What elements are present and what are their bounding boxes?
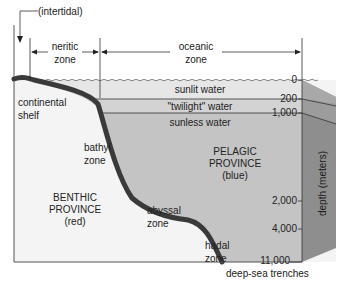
oceanic-arrowhead-right (295, 50, 301, 55)
pelagic-province-label-3: (blue) (200, 170, 270, 181)
continental-shelf-label-2: shelf (18, 110, 39, 121)
sunless-water-label: sunless water (150, 117, 250, 128)
intertidal-label: (intertidal) (38, 6, 82, 17)
continental-shelf-label-1: continental (18, 97, 66, 108)
benthic-province-label-1: BENTHIC (40, 192, 110, 203)
intertidal-arrow (20, 11, 38, 38)
pelagic-province-label-1: PELAGIC (200, 146, 270, 157)
bathyl-zone-label-2: zone (84, 155, 106, 166)
depth-tick-1000: 1,000 (262, 107, 297, 118)
oceanic-zone-label-1: oceanic (168, 41, 224, 52)
bathyl-zone-label-1: bathyl (84, 142, 111, 153)
twilight-water-label: "twilight" water (150, 101, 250, 112)
sunlit-water-label: sunlit water (150, 84, 250, 95)
depth-tick-2000: 2,000 (262, 195, 297, 206)
oceanic-zone-label-2: zone (168, 54, 224, 65)
abyssal-zone-label-1: abyssal (147, 205, 181, 216)
depth-tick-4000: 4,000 (262, 223, 297, 234)
neritic-zone-label-2: zone (45, 54, 85, 65)
neritic-arrowhead-left (31, 50, 37, 55)
neritic-zone-label-1: neritic (45, 41, 85, 52)
intertidal-arrowhead (17, 36, 23, 43)
neritic-arrowhead-right (93, 50, 99, 55)
benthic-province-label-2: PROVINCE (40, 204, 110, 215)
deep-sea-trenches-label: deep-sea trenches (226, 268, 309, 279)
depth-tick-11000: 11,000 (250, 255, 290, 266)
depth-tick-200: 200 (270, 93, 297, 104)
hadal-zone-label-1: hadal (205, 240, 229, 251)
benthic-province-label-3: (red) (40, 216, 110, 227)
depth-tick-0: 0 (270, 74, 297, 85)
pelagic-province-label-2: PROVINCE (200, 158, 270, 169)
abyssal-zone-label-2: zone (147, 218, 169, 229)
depth-axis-label: depth (meters) (317, 144, 328, 224)
oceanic-arrowhead-left (101, 50, 107, 55)
hadal-zone-label-2: zone (205, 253, 227, 264)
